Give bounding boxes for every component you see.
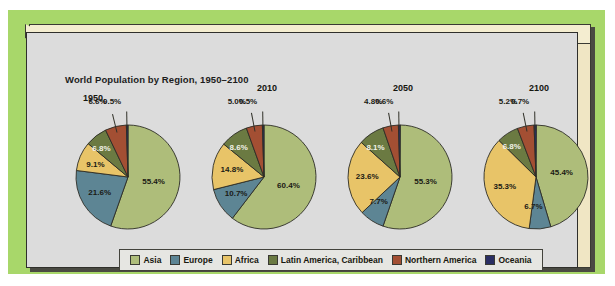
- legend-label: Africa: [235, 255, 259, 265]
- legend-item-northern-america[interactable]: Northern America: [392, 255, 476, 265]
- legend-swatch-icon: [130, 255, 140, 265]
- pie-chart-2100: 210045.4%6.7%35.3%6.8%5.2%0.7%: [467, 89, 605, 244]
- pie-value-label: 21.6%: [88, 188, 111, 197]
- pie-value-label: 23.6%: [356, 172, 379, 181]
- pie-value-label: 14.8%: [221, 165, 244, 174]
- pie-value-label: 45.4%: [550, 168, 573, 177]
- legend-label: Oceania: [498, 255, 531, 265]
- pie-value-label: 55.3%: [414, 177, 437, 186]
- legend-item-africa[interactable]: Africa: [222, 255, 259, 265]
- pie-value-label: 7.7%: [370, 197, 388, 206]
- pie-value-label: 6.7%: [524, 202, 542, 211]
- pie-value-label: 8.1%: [366, 143, 384, 152]
- pie-svg-1950: [59, 89, 197, 239]
- legend-item-oceania[interactable]: Oceania: [485, 255, 531, 265]
- pie-value-label: 6.8%: [503, 142, 521, 151]
- pie-chart-2050: 205055.3%7.7%23.6%8.1%4.8%0.6%: [331, 89, 469, 244]
- pie-value-label: 60.4%: [277, 181, 300, 190]
- pie-svg-2100: [467, 89, 605, 239]
- pie-value-label: 8.6%: [230, 143, 248, 152]
- page-title: World Population by Region, 1950–2100: [65, 74, 249, 85]
- legend-label: Asia: [143, 255, 161, 265]
- legend-label: Europe: [183, 255, 212, 265]
- chart-legend: AsiaEuropeAfricaLatin America, Caribbean…: [119, 249, 543, 271]
- pie-svg-2010: [195, 89, 333, 239]
- pie-value-label: 10.7%: [225, 189, 248, 198]
- pie-value-label: 0.5%: [239, 97, 257, 106]
- pie-value-label: 0.5%: [103, 97, 121, 106]
- pie-value-label: 0.6%: [375, 97, 393, 106]
- pie-chart-2010: 201060.4%10.7%14.8%8.6%5.0%0.5%: [195, 89, 333, 244]
- legend-label: Northern America: [405, 255, 476, 265]
- legend-swatch-icon: [392, 255, 402, 265]
- pie-svg-2050: [331, 89, 469, 239]
- legend-swatch-icon: [268, 255, 278, 265]
- legend-label: Latin America, Caribbean: [281, 255, 383, 265]
- figure-root: World Population by Region, 1950–2100 19…: [0, 0, 615, 286]
- pie-value-label: 0.7%: [511, 97, 529, 106]
- legend-item-latin-america-caribbean[interactable]: Latin America, Caribbean: [268, 255, 383, 265]
- pie-value-label: 35.3%: [493, 182, 516, 191]
- pie-value-label: 55.4%: [142, 177, 165, 186]
- legend-swatch-icon: [170, 255, 180, 265]
- legend-swatch-icon: [222, 255, 232, 265]
- legend-item-asia[interactable]: Asia: [130, 255, 161, 265]
- legend-item-europe[interactable]: Europe: [170, 255, 212, 265]
- pie-chart-group: 195055.4%21.6%9.1%6.8%6.6%0.5%201060.4%1…: [53, 89, 605, 244]
- chart-panel: World Population by Region, 1950–2100 19…: [26, 32, 578, 268]
- pie-value-label: 9.1%: [86, 160, 104, 169]
- pie-value-label: 6.8%: [92, 144, 110, 153]
- pie-chart-1950: 195055.4%21.6%9.1%6.8%6.6%0.5%: [59, 89, 197, 244]
- legend-swatch-icon: [485, 255, 495, 265]
